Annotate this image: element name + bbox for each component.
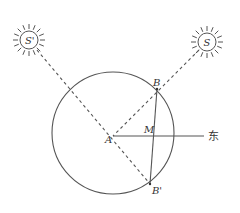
label-b: B: [152, 77, 160, 88]
earth-circle: [52, 72, 174, 194]
ray-s-to-a: [113, 50, 199, 136]
label-m: M: [143, 124, 155, 135]
point-b-prime: [149, 183, 151, 185]
label-a: A: [104, 134, 112, 145]
label-b-prime: B': [151, 185, 162, 196]
label-s: S: [204, 37, 211, 48]
point-b: [156, 88, 158, 90]
sun-s-prime-icon: S': [13, 24, 45, 56]
sun-s-icon: S: [191, 26, 223, 58]
label-east: 东: [208, 130, 219, 143]
label-s-prime: S': [25, 35, 35, 46]
astronomy-diagram: S' S A M B B' 东: [0, 0, 240, 213]
